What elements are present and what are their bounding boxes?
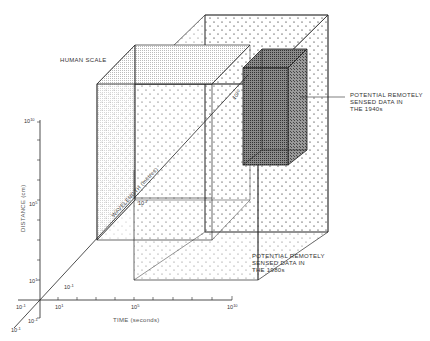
time-axis-label: TIME (seconds) — [113, 317, 160, 324]
wavelength-tick-10-neg1-start: 10-1 — [11, 326, 21, 333]
sensed-1940s-label: POTENTIAL REMOTELY SENSED DATA IN THE 19… — [350, 92, 423, 113]
sensed-1940s-line-1: POTENTIAL REMOTELY — [350, 92, 423, 99]
distance-axis — [37, 120, 40, 318]
distance-tick-10-10: 1010 — [24, 117, 35, 124]
distance-tick-10-neg1: 10-1 — [28, 317, 38, 324]
sensed-1980s-line-2: SENSED DATA IN — [252, 260, 325, 267]
wavelength-tick-10-neg1: 10-1 — [64, 283, 74, 290]
sensed-1980s-line-3: THE 1980s — [252, 267, 325, 274]
sensed-1940s-line-3: THE 1940s — [350, 106, 423, 113]
time-axis — [18, 296, 232, 300]
sensed-1980s-label: POTENTIAL REMOTELY SENSED DATA IN THE 19… — [252, 253, 325, 274]
distance-tick-10-5: 105 — [29, 200, 37, 207]
sensed-1940s-line-2: SENSED DATA IN — [350, 99, 423, 106]
time-tick-10-5: 105 — [131, 303, 139, 310]
wavelength-tick-10-neg7: 10-7 — [138, 199, 148, 206]
human-scale-label: HUMAN SCALE — [60, 57, 107, 64]
time-tick-10-10: 1010 — [227, 303, 238, 310]
sensed-1980s-line-1: POTENTIAL REMOTELY — [252, 253, 325, 260]
distance-tick-10-1: 101 — [29, 277, 37, 284]
time-tick-10-1: 101 — [55, 303, 63, 310]
time-tick-10-neg1: 10-1 — [16, 303, 26, 310]
distance-axis-label: DISTANCE (cm) — [20, 185, 27, 232]
diagram-canvas: HUMAN SCALE POTENTIAL REMOTELY SENSED DA… — [0, 0, 430, 341]
box-1940s — [243, 49, 307, 165]
